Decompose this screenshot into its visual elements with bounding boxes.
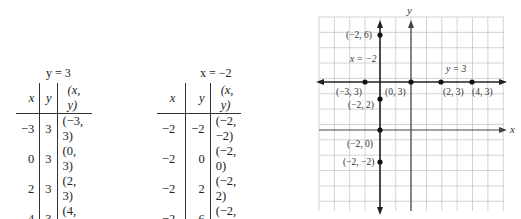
point: [377, 159, 382, 164]
point-labels: (−3, 3) (0, 3) (2, 3) (4, 3) (−2, 6) (−2…: [336, 30, 493, 168]
point-label: (2, 3): [443, 87, 464, 98]
point: [377, 32, 382, 37]
point: [438, 79, 443, 84]
point: [408, 79, 413, 84]
point-label: (−3, 3): [336, 87, 362, 98]
point-label: (0, 3): [385, 87, 406, 98]
point-label: (−2, 2): [348, 100, 374, 111]
y-axis-label: y: [406, 4, 412, 16]
point: [469, 79, 474, 84]
x-axis-label: x: [509, 123, 515, 135]
arrow-icon: [377, 20, 383, 28]
arrow-icon: [377, 207, 383, 215]
point: [377, 127, 382, 132]
y-axis-arrow-icon: [408, 20, 414, 28]
point-label: (4, 3): [472, 87, 493, 98]
label-x-equals-neg2: x = −2: [349, 54, 377, 64]
coordinate-graph: x y y = 3 x = −2 (−3, 3) (0, 3) (2, 3) (…: [0, 0, 521, 219]
label-y-equals-3: y = 3: [445, 64, 466, 74]
point: [377, 96, 382, 101]
point-label: (−2, 6): [346, 30, 372, 41]
arrow-icon: [316, 79, 324, 85]
point-label: (−2, −2): [343, 157, 374, 168]
point: [362, 79, 367, 84]
point-label: (−2, 0): [347, 139, 373, 150]
